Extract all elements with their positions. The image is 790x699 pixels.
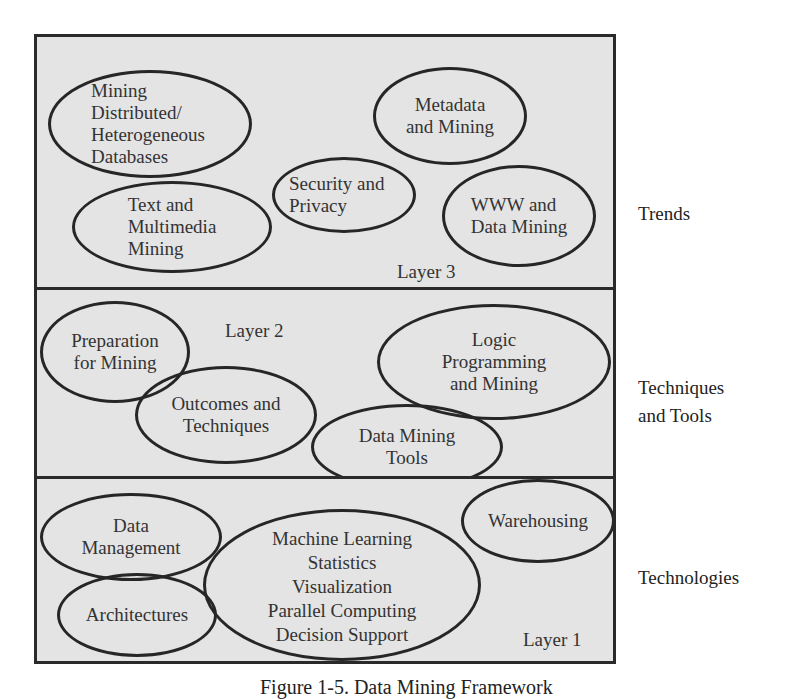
node-security-privacy: Security and Privacy	[272, 157, 416, 233]
side-label-technologies: Technologies	[638, 564, 739, 592]
node-data-management: Data Management	[40, 493, 222, 581]
layer-3-panel: Mining Distributed/ Heterogeneous Databa…	[37, 37, 613, 287]
layer-1-panel: Data Management Architectures Machine Le…	[37, 479, 613, 661]
node-architectures: Architectures	[57, 573, 217, 657]
node-label: WWW and Data Mining	[471, 194, 568, 238]
node-label: Security and Privacy	[289, 173, 385, 217]
node-label: Warehousing	[488, 510, 588, 532]
node-mining-distributed-heterogeneous-databases: Mining Distributed/ Heterogeneous Databa…	[48, 70, 252, 178]
side-label-trends: Trends	[638, 200, 690, 228]
node-www-data-mining: WWW and Data Mining	[442, 165, 596, 267]
node-warehousing: Warehousing	[461, 479, 613, 563]
node-label: Data Management	[81, 515, 180, 559]
figure-caption: Figure 1-5. Data Mining Framework	[260, 676, 553, 699]
node-outcomes-techniques: Outcomes and Techniques	[135, 366, 317, 464]
node-label: Logic Programming and Mining	[442, 329, 547, 395]
node-label: Data Mining Tools	[359, 425, 456, 469]
node-label: Machine Learning Statistics Visualizatio…	[268, 527, 416, 647]
node-label: Architectures	[86, 604, 188, 626]
node-label: Outcomes and Techniques	[171, 393, 280, 437]
layer-2-label: Layer 2	[225, 320, 284, 342]
node-label: Text and Multimedia Mining	[128, 194, 217, 260]
node-label: Metadata and Mining	[406, 94, 494, 138]
layer-3-label: Layer 3	[397, 261, 456, 283]
node-ml-statistics-visualization-parallel-decision: Machine Learning Statistics Visualizatio…	[203, 509, 481, 661]
side-label-techniques-tools: Techniques and Tools	[638, 374, 724, 430]
node-metadata-mining: Metadata and Mining	[373, 67, 527, 165]
layer-1-label: Layer 1	[523, 629, 582, 651]
node-logic-programming-mining: Logic Programming and Mining	[377, 304, 611, 420]
layer-2-panel: Preparation for Mining Outcomes and Tech…	[37, 290, 613, 476]
node-label: Mining Distributed/ Heterogeneous Databa…	[91, 80, 205, 168]
node-text-multimedia-mining: Text and Multimedia Mining	[72, 181, 272, 273]
framework-frame: Mining Distributed/ Heterogeneous Databa…	[34, 34, 616, 664]
node-label: Preparation for Mining	[71, 330, 159, 374]
